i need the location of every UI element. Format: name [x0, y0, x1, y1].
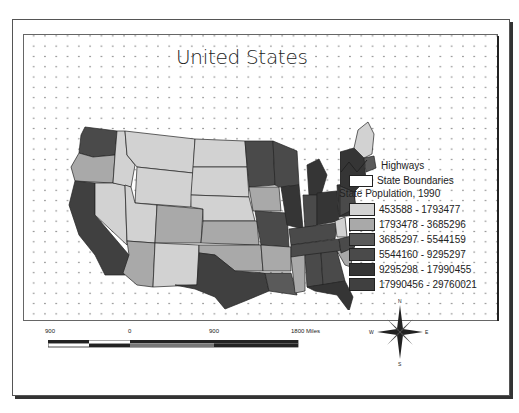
legend-field-title: State Population, 1990	[339, 188, 477, 202]
legend-class-row: 1793478 - 3685296	[339, 217, 477, 232]
state-wyoming	[135, 167, 193, 207]
scale-label-zero: 0	[128, 328, 131, 334]
legend-class-row: 453588 - 1793477	[339, 202, 477, 217]
compass-s: S	[398, 361, 402, 367]
legend[interactable]: Highways State Boundaries State Populati…	[339, 158, 477, 292]
highway-line-icon	[339, 158, 379, 174]
class-swatch-icon	[349, 263, 375, 276]
frame-shadow	[497, 36, 499, 321]
map-title[interactable]: United States	[176, 45, 308, 69]
state-missouri	[255, 211, 289, 247]
state-wisconsin	[273, 141, 299, 187]
state-washington	[79, 127, 117, 157]
legend-highways-label: Highways	[381, 160, 424, 172]
class-label: 453588 - 1793477	[379, 204, 460, 216]
compass-w: W	[369, 329, 374, 335]
state-minnesota	[245, 141, 275, 187]
legend-boundaries-label: State Boundaries	[377, 175, 454, 187]
state-kansas	[201, 221, 259, 245]
compass-n: N	[398, 298, 402, 304]
compass-e: E	[425, 329, 429, 335]
scale-label-right: 1800 Miles	[291, 328, 320, 334]
legend-class-row: 3685297 - 5544159	[339, 232, 477, 247]
legend-classes: 453588 - 17934771793478 - 36852963685297…	[339, 202, 477, 292]
state-michigan	[307, 159, 327, 195]
scale-label-mid: 900	[209, 328, 219, 334]
legend-class-row: 9295298 - 17990455	[339, 262, 477, 277]
legend-highways: Highways	[339, 158, 477, 173]
state-ohio	[317, 191, 339, 225]
class-swatch-icon	[349, 278, 375, 291]
state-oregon	[71, 153, 115, 183]
class-swatch-icon	[349, 233, 375, 246]
state-iowa	[249, 187, 281, 211]
class-label: 9295298 - 17990455	[379, 264, 471, 276]
state-north-dakota	[193, 139, 247, 167]
state-alabama	[305, 253, 323, 287]
state-arkansas	[261, 245, 291, 271]
class-label: 5544160 - 9295297	[379, 249, 466, 261]
state-south-dakota	[191, 167, 249, 197]
class-swatch-icon	[349, 218, 375, 231]
state-indiana	[303, 195, 317, 229]
state-montana	[125, 131, 195, 173]
north-arrow-compass-icon[interactable]: N S W E	[365, 297, 435, 367]
state-colorado	[155, 205, 203, 243]
class-label: 3685297 - 5544159	[379, 234, 466, 246]
scale-bar-graphic	[48, 340, 300, 348]
legend-class-row: 5544160 - 9295297	[339, 247, 477, 262]
state-new-mexico	[153, 243, 199, 287]
us-choropleth-map[interactable]	[65, 125, 355, 310]
scale-bar[interactable]: 900 0 900 1800 Miles	[45, 338, 305, 348]
class-label: 17990456 - 29760021	[379, 279, 477, 291]
state-louisiana	[265, 273, 297, 295]
legend-state-boundaries: State Boundaries	[339, 173, 477, 188]
legend-class-row: 17990456 - 29760021	[339, 277, 477, 292]
class-swatch-icon	[349, 248, 375, 261]
scale-label-left: 900	[45, 328, 55, 334]
state-arizona	[123, 241, 155, 287]
class-swatch-icon	[349, 203, 375, 216]
class-label: 1793478 - 3685296	[379, 219, 466, 231]
boundary-swatch-icon	[349, 175, 373, 187]
